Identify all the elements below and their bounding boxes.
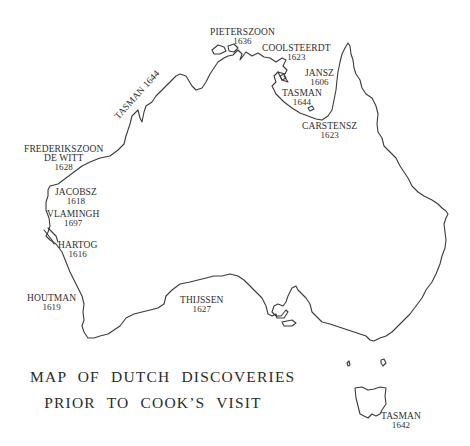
label-thijssen: THIJSSEN 1627 (180, 296, 224, 314)
label-houtman: HOUTMAN 1619 (27, 294, 76, 312)
map-title-line-1: MAP OF DUTCH DISCOVERIES (30, 368, 276, 386)
melville-island (212, 45, 226, 54)
label-vlamingh: VLAMINGH 1697 (47, 210, 100, 228)
label-jacobsz: JACOBSZ 1618 (55, 188, 97, 206)
small-island-gulf (280, 74, 286, 80)
label-tasman-1644-gulf: TASMAN 1644 (282, 89, 322, 107)
kangaroo-island (282, 320, 296, 326)
mainland-outline (46, 43, 448, 341)
label-tasman-1642: TASMAN 1642 (381, 412, 421, 430)
label-frederikszoon-de-witt: FREDERIKSZOON DE WITT 1628 (24, 145, 103, 172)
label-hartog: HARTOG 1616 (58, 241, 97, 259)
dutch-discoveries-map: PIETERSZOON 1636 COOLSTEERDT 1623 JANSZ … (0, 0, 470, 446)
king-island (347, 361, 350, 366)
label-jansz: JANSZ 1606 (305, 69, 334, 87)
label-coolsteerdt: COOLSTEERDT 1623 (262, 44, 331, 62)
label-carstensz: CARSTENSZ 1623 (302, 122, 357, 140)
map-title-line-2: PRIOR TO COOK’S VISIT (30, 394, 276, 412)
flinders-island (381, 359, 386, 366)
